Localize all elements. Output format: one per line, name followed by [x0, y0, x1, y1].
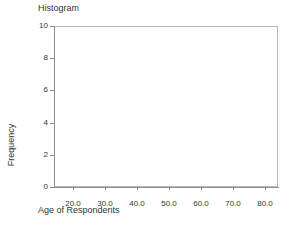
histogram-chart-image: Histogram 10 8 6 4 2 0 Frequency 20.0 30… — [0, 0, 289, 230]
x-axis-line — [54, 187, 279, 188]
y-axis-title: Frequency — [6, 113, 16, 177]
y-axis-tick — [50, 187, 55, 188]
x-axis-title: Age of Respondents — [38, 205, 120, 216]
y-axis-tick-label: 2 — [28, 151, 48, 159]
x-axis-tick-label: 50.0 — [161, 199, 177, 208]
x-axis-tick-label-wrap: 80.0 — [250, 192, 280, 210]
y-axis-tick-label: 6 — [28, 86, 48, 94]
x-axis-tick-label-wrap: 70.0 — [218, 192, 248, 210]
x-axis-tick-label-wrap: 50.0 — [154, 192, 184, 210]
y-axis-tick-label-wrap: 2 — [28, 151, 48, 159]
y-axis-tick-label-wrap: 8 — [28, 54, 48, 62]
y-axis-tick-label-wrap: 4 — [28, 119, 48, 127]
x-axis-tick-label: 70.0 — [225, 199, 241, 208]
y-axis-tick-label: 4 — [28, 119, 48, 127]
x-axis-tick-label-wrap: 40.0 — [122, 192, 152, 210]
x-axis-tick-label: 80.0 — [257, 199, 273, 208]
y-axis-tick-label: 0 — [28, 183, 48, 191]
y-axis-tick-label-wrap: 10 — [28, 22, 48, 30]
y-axis-tick-label: 8 — [28, 54, 48, 62]
y-axis-tick-label-wrap: 0 — [28, 183, 48, 191]
x-axis-tick-label: 60.0 — [193, 199, 209, 208]
y-axis-tick-label-wrap: 6 — [28, 86, 48, 94]
chart-title: Histogram — [38, 3, 79, 14]
x-axis-tick-label-wrap: 60.0 — [186, 192, 216, 210]
histogram-bars-layer — [55, 27, 278, 187]
y-axis-tick-label: 10 — [28, 22, 48, 30]
x-axis-tick-label: 40.0 — [129, 199, 145, 208]
